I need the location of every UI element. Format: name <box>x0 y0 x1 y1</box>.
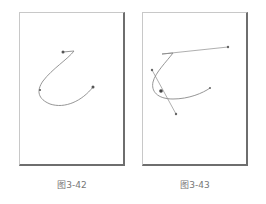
figure-3-43-canvas <box>142 12 248 166</box>
handle-endpoint <box>151 69 153 71</box>
bezier-curve <box>39 51 93 105</box>
handle-endpoint <box>175 113 177 115</box>
bezier-path-diagram <box>143 13 249 167</box>
bezier-path-diagram <box>20 13 126 167</box>
figure-caption: 图3-42 <box>19 178 125 191</box>
anchor-point <box>62 51 65 54</box>
selected-anchor-point <box>159 89 163 93</box>
figure-caption: 图3-43 <box>142 178 248 191</box>
anchor-point <box>92 86 95 89</box>
handle-endpoint <box>227 46 229 48</box>
anchor-point <box>39 89 41 91</box>
anchor-point <box>209 87 211 89</box>
figure-3-42-canvas <box>19 12 125 166</box>
